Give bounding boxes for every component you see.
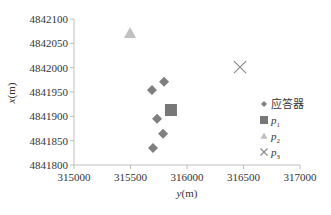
diamond-marker	[159, 77, 169, 87]
triangle-marker	[124, 27, 136, 38]
legend-label: p1	[270, 114, 281, 129]
x-tick-label: 316500	[227, 171, 261, 183]
legend-cross-icon	[261, 149, 268, 156]
legend-label: p2	[270, 130, 281, 145]
legend-label: p3	[270, 146, 281, 161]
diamond-marker	[152, 114, 162, 124]
y-tick-label: 4842100	[30, 13, 69, 25]
x-tick-label: 315500	[114, 171, 148, 183]
y-axis-ticks: 4841800484185048419004841950484200048420…	[30, 13, 75, 171]
square-marker	[165, 104, 177, 116]
y-tick-label: 4842000	[30, 62, 69, 74]
chart-canvas: 4841800484185048419004841950484200048420…	[0, 0, 331, 215]
y-tick-label: 4841900	[30, 110, 69, 122]
x-axis-ticks: 315000315500316000316500317000	[58, 165, 318, 183]
legend-item: 应答器	[261, 97, 304, 110]
scatter-chart: 4841800484185048419004841950484200048420…	[0, 0, 331, 215]
y-tick-label: 4841800	[30, 159, 69, 171]
legend-triangle-icon	[261, 133, 268, 139]
diamond-marker	[148, 143, 158, 153]
legend-label: 应答器	[271, 97, 304, 110]
legend-diamond-icon	[261, 101, 267, 107]
y-tick-label: 4842050	[30, 37, 69, 49]
y-axis-title: x(m)	[5, 82, 18, 104]
legend-item: p1	[260, 114, 281, 129]
diamond-marker	[158, 129, 168, 139]
x-tick-label: 316000	[171, 171, 205, 183]
legend: 应答器p1p2p3	[260, 97, 304, 161]
data-points	[124, 27, 246, 153]
legend-item: p2	[261, 130, 281, 145]
legend-item: p3	[261, 146, 281, 161]
y-tick-label: 4841950	[30, 86, 69, 98]
x-tick-label: 317000	[284, 171, 318, 183]
x-axis-title: y(m)	[176, 187, 198, 200]
axes	[74, 19, 300, 165]
x-tick-label: 315000	[58, 171, 92, 183]
diamond-marker	[147, 85, 157, 95]
y-tick-label: 4841850	[30, 135, 69, 147]
legend-square-icon	[260, 116, 268, 124]
cross-marker	[234, 61, 246, 73]
